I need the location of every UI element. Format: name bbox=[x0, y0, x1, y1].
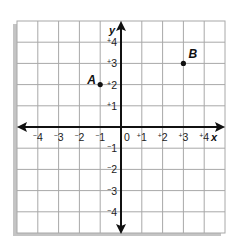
point-a-label: A bbox=[86, 73, 96, 87]
point-b-dot bbox=[181, 61, 186, 66]
x-tick-label: 0 bbox=[124, 131, 130, 143]
y-axis-label: y bbox=[108, 24, 116, 36]
point-a-dot bbox=[98, 82, 103, 87]
coordinate-plane: x y −4−3−2−10+1+2+3+4 +4+3+2+1−1−2−3−4 A… bbox=[0, 0, 235, 245]
point-b-label: B bbox=[188, 47, 197, 61]
x-axis-label: x bbox=[210, 131, 218, 143]
